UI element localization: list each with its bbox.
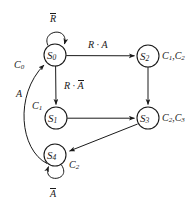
output-label-s4-base: C [69, 159, 76, 170]
output-label-s4: C2 [69, 160, 79, 171]
output-label-s2: C1,C2 [162, 51, 185, 62]
output-label-s0-sub: 0 [21, 63, 25, 71]
transition-label-s0-to-s1-abar: A [78, 80, 84, 91]
state-label-s4-sub: 4 [53, 153, 57, 162]
transition-label-s4-self-loop-text: A [50, 188, 56, 199]
output-label-s0-base: C [14, 59, 21, 70]
state-label-s1-sub: 1 [54, 116, 58, 125]
output-label-s1-sub: 1 [39, 104, 43, 112]
output-label-s0: C0 [14, 60, 24, 71]
edge-s4-to-s0 [24, 65, 47, 164]
state-label-s1: S1 [48, 113, 57, 125]
state-label-s3-sub: 3 [146, 116, 150, 125]
state-label-s0: S0 [47, 50, 56, 62]
output-label-s2-sub-2: 2 [181, 54, 185, 62]
transition-label-s0-self-loop: R [50, 13, 56, 24]
edge-s3-to-s4 [70, 124, 138, 151]
output-label-s3: C2,C3 [162, 113, 185, 124]
transition-label-s4-self-loop: A [50, 188, 56, 199]
edge-s4-self-loop [48, 165, 64, 178]
state-label-s2-sub: 2 [146, 54, 150, 63]
transition-label-s4-to-s0: A [16, 89, 22, 99]
output-label-s3-base-1: C [162, 112, 169, 123]
output-label-s4-sub: 2 [76, 163, 80, 171]
output-label-s1: C1 [32, 101, 42, 112]
state-label-s0-sub: 0 [53, 53, 57, 62]
transition-label-s0-to-s1: R · A [64, 80, 84, 91]
output-label-s2-base-1: C [162, 50, 169, 61]
state-label-s4: S4 [47, 150, 56, 162]
output-label-s3-sub-2: 3 [181, 116, 185, 124]
output-label-s1-base: C [32, 100, 39, 111]
transition-label-s0-self-loop-text: R [50, 13, 56, 24]
transition-label-s0-to-s2-a: A [102, 39, 108, 50]
transition-label-s0-to-s2-dot: · [94, 39, 102, 50]
state-diagram-canvas: S0 S1 S2 S3 S4 C0 C1 C1,C2 C2,C3 C2 R R … [0, 0, 194, 209]
transition-label-s4-to-s0-text: A [16, 88, 22, 99]
transition-label-s0-to-s1-dot: · [70, 80, 78, 91]
state-label-s2: S2 [140, 51, 149, 63]
transition-label-s0-to-s2: R · A [88, 40, 108, 50]
state-diagram-graphics [0, 0, 194, 209]
state-label-s3: S3 [140, 113, 149, 125]
